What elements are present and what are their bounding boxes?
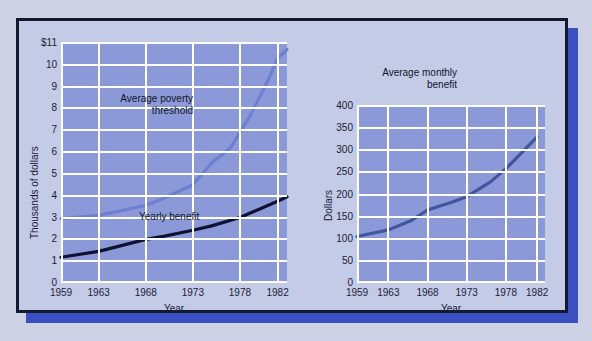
x-tick-label: 1963 <box>88 287 110 298</box>
y-tick-label: 6 <box>51 147 57 157</box>
x-tick-label: 1963 <box>377 287 399 298</box>
gridline-vertical <box>427 106 429 283</box>
x-tick-label: 1982 <box>266 287 288 298</box>
gridline-horizontal <box>61 238 287 240</box>
x-axis-title-left: Year <box>61 303 287 314</box>
y-tick-label: 50 <box>342 256 353 266</box>
gridline-horizontal <box>357 105 545 107</box>
y-tick-label: 100 <box>336 234 353 244</box>
gridline-vertical <box>61 43 63 283</box>
series-lines-left <box>61 43 287 283</box>
y-tick-label: $11 <box>41 38 57 48</box>
gridline-horizontal <box>61 195 287 197</box>
y-tick-label: 400 <box>336 101 353 111</box>
gridline-horizontal <box>61 129 287 131</box>
chart-average-monthly-benefit: 050100150200250300350400 195919631968197… <box>309 21 565 310</box>
gridline-horizontal <box>61 173 287 175</box>
y-tick-label: 9 <box>51 82 57 92</box>
x-axis-ticks-left: 195919631968197319781982 <box>61 287 287 301</box>
plot-area-left <box>61 43 287 283</box>
charts-row: 012345678910$11 195919631968197319781982… <box>19 21 565 310</box>
gridline-horizontal <box>357 281 545 283</box>
x-tick-label: 1959 <box>346 287 368 298</box>
y-axis-title-right: Dollars <box>323 190 334 221</box>
gridline-horizontal <box>357 260 545 262</box>
y-tick-label: 3 <box>51 213 57 223</box>
gridline-vertical <box>145 43 147 283</box>
x-axis-ticks-right: 195919631968197319781982 <box>357 287 545 301</box>
x-tick-label: 1973 <box>456 287 478 298</box>
x-tick-label: 1973 <box>182 287 204 298</box>
annotation-yearly-benefit: Yearly benefit <box>139 211 239 223</box>
gridline-horizontal <box>61 260 287 262</box>
y-tick-label: 200 <box>336 190 353 200</box>
gridline-horizontal <box>357 127 545 129</box>
gridline-horizontal <box>61 151 287 153</box>
gridline-vertical <box>536 106 538 283</box>
x-axis-title-right: Year <box>357 303 545 314</box>
y-tick-label: 1 <box>51 256 57 266</box>
y-tick-label: 150 <box>336 212 353 222</box>
x-tick-label: 1959 <box>50 287 72 298</box>
y-tick-label: 8 <box>51 103 57 113</box>
gridline-vertical <box>387 106 389 283</box>
gridline-vertical <box>277 43 279 283</box>
gridline-vertical <box>357 106 359 283</box>
gridline-horizontal <box>357 194 545 196</box>
y-tick-label: 7 <box>51 125 57 135</box>
y-axis-title-left: Thousands of dollars <box>29 146 40 239</box>
y-tick-label: 300 <box>336 145 353 155</box>
series-line <box>61 50 287 219</box>
plot-area-right <box>357 106 545 283</box>
gridline-horizontal <box>357 149 545 151</box>
gridline-horizontal <box>61 86 287 88</box>
gridline-horizontal <box>61 64 287 66</box>
y-tick-label: 10 <box>46 60 57 70</box>
figure-frame: 012345678910$11 195919631968197319781982… <box>16 18 568 313</box>
x-tick-label: 1968 <box>416 287 438 298</box>
series-line <box>61 197 287 257</box>
series-line <box>357 137 537 237</box>
gridline-horizontal <box>357 238 545 240</box>
gridline-vertical <box>505 106 507 283</box>
gridline-vertical <box>98 43 100 283</box>
gridline-horizontal <box>357 216 545 218</box>
y-tick-label: 2 <box>51 234 57 244</box>
y-tick-label: 250 <box>336 167 353 177</box>
x-tick-label: 1982 <box>526 287 548 298</box>
figure-stage: 012345678910$11 195919631968197319781982… <box>0 0 592 341</box>
gridline-vertical <box>239 43 241 283</box>
x-tick-label: 1978 <box>495 287 517 298</box>
x-tick-label: 1968 <box>135 287 157 298</box>
annotation-average-monthly-benefit: Average monthly benefit <box>353 67 457 91</box>
gridline-vertical <box>466 106 468 283</box>
gridline-horizontal <box>61 281 287 283</box>
y-tick-label: 5 <box>51 169 57 179</box>
y-tick-label: 4 <box>51 191 57 201</box>
gridline-horizontal <box>357 171 545 173</box>
x-tick-label: 1978 <box>229 287 251 298</box>
gridline-vertical <box>192 43 194 283</box>
annotation-average-poverty-threshold: Average poverty threshold <box>85 93 193 117</box>
chart-poverty-vs-yearly-benefit: 012345678910$11 195919631968197319781982… <box>19 21 309 310</box>
y-tick-label: 350 <box>336 123 353 133</box>
gridline-horizontal <box>61 42 287 44</box>
